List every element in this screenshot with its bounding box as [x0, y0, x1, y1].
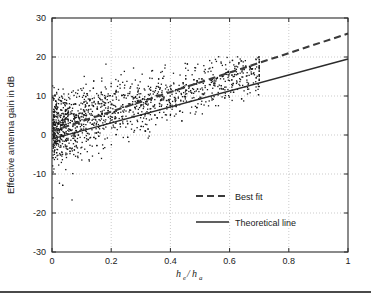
y-tick-label: -10 — [33, 169, 46, 179]
x-tick-label: 0.2 — [105, 256, 118, 266]
x-tick-label: 0.4 — [164, 256, 177, 266]
y-tick-label: 0 — [41, 130, 46, 140]
y-tick-label: 20 — [36, 52, 46, 62]
x-tick-label: 0.8 — [283, 256, 296, 266]
x-axis-label-denominator-sub: a — [199, 274, 203, 282]
y-tick-label: 30 — [36, 13, 46, 23]
x-axis-label-slash: / — [186, 268, 191, 279]
footer-divider — [0, 291, 371, 293]
x-tick-label: 0.6 — [223, 256, 236, 266]
y-tick-label: -30 — [33, 247, 46, 257]
x-tick-label: 1 — [345, 256, 350, 266]
x-axis-label: h e / h a — [176, 268, 203, 282]
x-axis-label-denominator-base: h — [192, 268, 197, 279]
y-tick-label: 10 — [36, 91, 46, 101]
figure-container: 00.20.40.60.81 -30-20-100102030 Effectiv… — [0, 0, 371, 299]
legend-label-best-fit: Best fit — [235, 192, 263, 202]
scatter-chart: 00.20.40.60.81 -30-20-100102030 Effectiv… — [0, 0, 371, 299]
x-tick-label: 0 — [49, 256, 54, 266]
x-axis-label-numerator-base: h — [176, 268, 181, 279]
y-tick-label: -20 — [33, 208, 46, 218]
legend-label-theoretical-line: Theoretical line — [235, 218, 296, 228]
y-axis-label: Effective antenna gain in dB — [5, 76, 16, 194]
x-axis-label-numerator-sub: e — [183, 274, 186, 282]
